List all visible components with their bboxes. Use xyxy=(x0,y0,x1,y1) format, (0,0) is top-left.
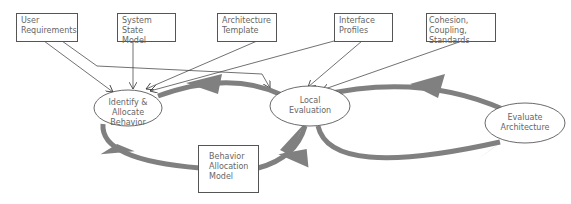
label-line: Evaluate xyxy=(485,113,565,123)
label-line: Standards xyxy=(429,36,493,46)
label-line: Local xyxy=(270,96,350,106)
arrowhead-left-upper xyxy=(186,74,222,94)
label-line: Allocate Behavior xyxy=(94,108,162,128)
cycle-arrow-local-to-eval-arch xyxy=(318,126,500,158)
label-line: Allocation xyxy=(209,162,248,172)
input-system-state-model: System State Model xyxy=(117,13,176,42)
label-line: Requirements xyxy=(21,26,73,36)
input-interface-profiles: Interface Profiles xyxy=(334,13,393,42)
label-local-evaluation: Local Evaluation xyxy=(270,96,350,116)
arrowhead-left-lower xyxy=(99,139,134,163)
label-line: Cohesion, Coupling, xyxy=(429,16,493,36)
label-line: Identify & xyxy=(94,98,162,108)
label-line: Architecture xyxy=(485,123,565,133)
label-line: Evaluation xyxy=(270,106,350,116)
label-evaluate-architecture: Evaluate Architecture xyxy=(485,113,565,133)
label-line: Model xyxy=(209,172,248,182)
input-user-requirements: User Requirements xyxy=(16,13,78,42)
label-line: Profiles xyxy=(339,26,388,36)
arrowhead-right-upper xyxy=(410,74,445,98)
label-line: Interface xyxy=(339,16,388,26)
arrow-interface-to-local-eval xyxy=(308,41,362,87)
cycle-arrow-local-to-identify xyxy=(158,83,282,96)
input-architecture-template: Architecture Template xyxy=(217,13,277,42)
input-cohesion-coupling-standards: Cohesion, Coupling, Standards xyxy=(426,13,496,42)
label-line: User xyxy=(21,16,73,26)
label-line: System State xyxy=(122,16,171,36)
label-line: Behavior xyxy=(209,152,248,162)
label-line: Template xyxy=(222,26,272,36)
artifact-behavior-allocation-model: Behavior Allocation Model xyxy=(198,145,259,193)
label-line: Architecture xyxy=(222,16,272,26)
label-identify-allocate: Identify & Allocate Behavior xyxy=(94,98,162,128)
label-line: Model xyxy=(122,36,171,46)
